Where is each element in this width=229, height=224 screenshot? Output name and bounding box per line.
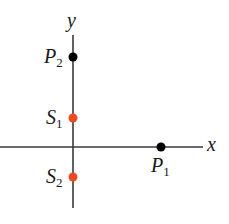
point-p2 — [69, 53, 78, 62]
coordinate-diagram — [0, 0, 229, 224]
point-p1 — [157, 143, 166, 152]
y-axis-label: y — [67, 10, 76, 30]
label-s2: S2 — [46, 166, 63, 189]
x-axis-label: x — [207, 134, 216, 154]
point-s1 — [69, 114, 78, 123]
point-s2 — [69, 173, 78, 182]
label-s1: S1 — [46, 107, 63, 130]
label-p2: P2 — [44, 46, 63, 69]
label-p1: P1 — [151, 155, 170, 178]
